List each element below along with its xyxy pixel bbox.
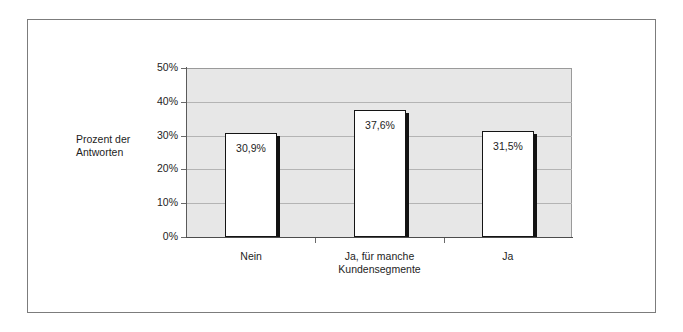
chart-figure: Prozent der Antworten 0%10%20%30%40%50% … (0, 0, 683, 332)
y-axis-line (186, 67, 187, 238)
y-tick-label-30: 30% (145, 129, 178, 141)
x-tick-mark-1 (315, 238, 316, 243)
y-tick-label-50: 50% (145, 61, 178, 73)
gridline-40 (187, 102, 572, 103)
bar-value-label: 31,5% (472, 140, 544, 152)
y-tick-label-0: 0% (145, 230, 178, 242)
y-tick-label-10: 10% (145, 196, 178, 208)
y-tick-mark-40 (181, 102, 186, 103)
x-tick-label: Nein (187, 250, 315, 263)
x-tick-mark-2 (444, 238, 445, 243)
x-axis-line (186, 237, 573, 238)
y-tick-mark-30 (181, 136, 186, 137)
y-tick-label-40: 40% (145, 95, 178, 107)
y-tick-label-20: 20% (145, 162, 178, 174)
y-tick-mark-10 (181, 203, 186, 204)
plot-area-right-edge (571, 68, 572, 237)
bar-value-label: 37,6% (344, 119, 416, 131)
bar-value-label: 30,9% (215, 142, 287, 154)
plot-area-top-edge (187, 68, 572, 69)
x-tick-label: Ja, für manche Kundensegmente (315, 250, 443, 276)
x-tick-label: Ja (444, 250, 572, 263)
y-tick-mark-50 (181, 68, 186, 69)
y-tick-mark-0 (181, 237, 186, 238)
y-tick-mark-20 (181, 169, 186, 170)
